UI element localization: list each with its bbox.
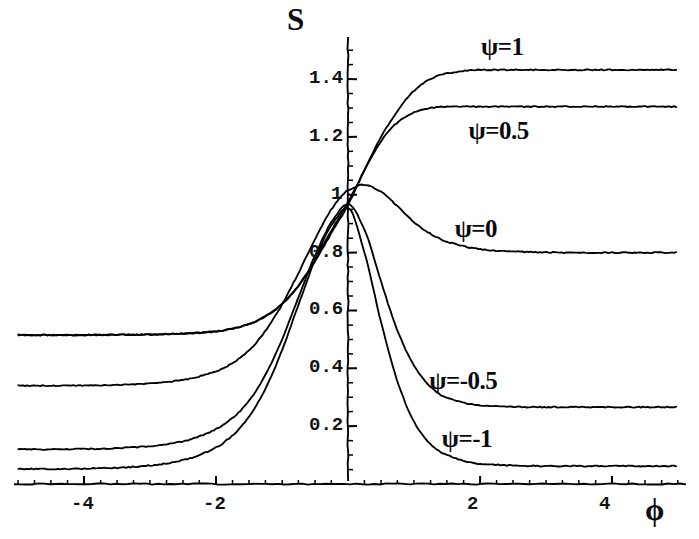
curve-label-psi-m1: ψ=-1 [442,425,492,453]
x-tick-label: 2 [467,493,478,515]
y-tick-label: 0.8 [309,241,343,263]
curve-label-psi-0: ψ=0 [455,215,497,243]
x-tick-label: 4 [599,493,610,515]
y-tick-label: 1 [331,183,342,205]
y-tick-label: 0.6 [309,298,343,320]
plot-canvas [0,0,699,539]
curve-label-psi-0p5: ψ=0.5 [469,117,529,145]
axis-layer [14,37,686,485]
x-tick-label: -4 [71,493,94,515]
y-axis-title: S [287,2,304,38]
x-tick-label: -2 [203,493,226,515]
chart-figure: S ϕ -4-224 0.20.40.60.811.21.4 ψ=1ψ=0.5ψ… [0,0,699,539]
y-tick-label: 0.2 [309,414,343,436]
x-axis-title: ϕ [645,492,664,528]
y-tick-label: 1.4 [309,67,343,89]
curve-label-psi-m0p5: ψ=-0.5 [429,367,497,395]
curve-label-psi-1: ψ=1 [481,33,523,61]
y-tick-label: 0.4 [309,356,343,378]
y-tick-label: 1.2 [309,125,343,147]
